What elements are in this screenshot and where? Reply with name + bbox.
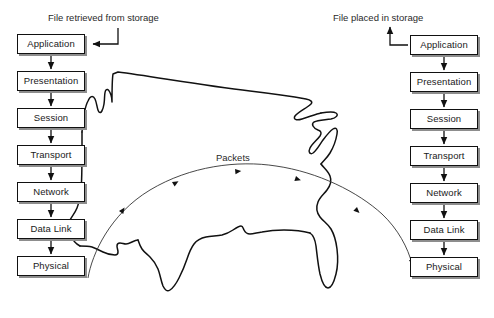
left-layer-application[interactable]: Application <box>17 34 85 54</box>
right-layer-data-link[interactable]: Data Link <box>410 220 478 240</box>
file-retrieved-label: File retrieved from storage <box>48 13 159 23</box>
file-placed-connector <box>390 27 408 45</box>
right-layer-transport[interactable]: Transport <box>410 146 478 166</box>
packets-arc <box>88 164 412 278</box>
file-placed-label: File placed in storage <box>333 13 423 23</box>
left-layer-presentation[interactable]: Presentation <box>17 71 85 91</box>
us-map-outline <box>69 72 338 291</box>
right-layer-application[interactable]: Application <box>410 35 478 55</box>
file-retrieved-connector <box>93 28 118 44</box>
diagram-canvas: File retrieved from storage File placed … <box>0 0 494 318</box>
left-layer-session[interactable]: Session <box>17 108 85 128</box>
right-layer-session[interactable]: Session <box>410 109 478 129</box>
left-layer-network[interactable]: Network <box>17 182 85 202</box>
packets-label: Packets <box>216 153 250 163</box>
left-layer-physical[interactable]: Physical <box>17 256 85 276</box>
right-layer-presentation[interactable]: Presentation <box>410 72 478 92</box>
left-layer-transport[interactable]: Transport <box>17 145 85 165</box>
left-layer-data-link[interactable]: Data Link <box>17 219 85 239</box>
right-layer-physical[interactable]: Physical <box>410 257 478 277</box>
right-layer-network[interactable]: Network <box>410 183 478 203</box>
